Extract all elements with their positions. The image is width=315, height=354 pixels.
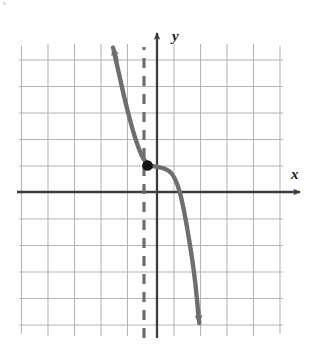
- inflection-point-dot: [142, 160, 153, 171]
- graph-figure: y x: [0, 0, 315, 354]
- curve-arrow-down: [198, 310, 199, 323]
- x-axis-label: x: [291, 167, 299, 182]
- y-axis-label: y: [172, 29, 179, 44]
- grid-lines: [19, 44, 283, 336]
- coordinate-plane: [0, 0, 315, 354]
